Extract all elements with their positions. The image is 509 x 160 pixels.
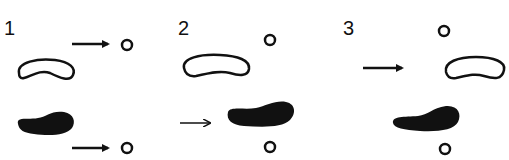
outline-bean-shape [184,55,249,76]
small-circle-icon [440,144,450,154]
small-circle-icon [122,143,132,153]
small-circle-icon [439,26,449,36]
small-circle-icon [122,40,132,50]
filled-bean-shape [228,102,294,127]
filled-bean-shape [18,112,74,135]
diagram: 1 2 3 [0,0,509,160]
filled-bean-shape [393,106,460,131]
panel-1 [18,40,132,153]
outline-bean-shape [19,60,74,79]
small-circle-icon [265,142,275,152]
outline-bean-shape [446,57,504,78]
small-circle-icon [265,35,275,45]
diagram-graphics [0,0,509,160]
panel-3 [363,26,504,154]
panel-2 [180,35,294,152]
